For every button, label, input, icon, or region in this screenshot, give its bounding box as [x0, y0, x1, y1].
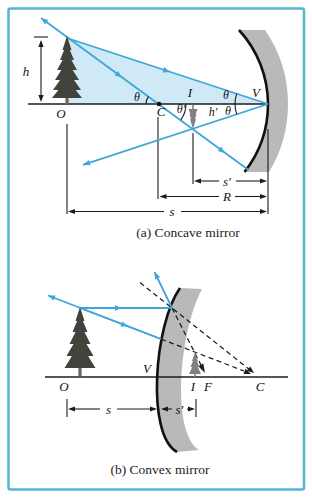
- image-tree-virtual: [189, 352, 201, 377]
- s-dimension-a: s: [68, 204, 267, 219]
- arrow-left: [194, 178, 201, 183]
- caption-concave: (a) Concave mirror: [136, 225, 240, 240]
- s-prime-label-b: s′: [176, 402, 184, 417]
- h-prime-label: h′: [209, 105, 218, 119]
- C-label-a: C: [157, 104, 166, 119]
- arrow-right: [260, 194, 267, 199]
- s-dimension-b: s: [68, 402, 157, 417]
- angle-arc-at-V-lower: [235, 104, 237, 114]
- radius-label: R: [222, 189, 231, 204]
- caption-convex: (b) Convex mirror: [111, 462, 210, 477]
- I-label-b: I: [190, 379, 196, 394]
- ray-arrow: [83, 160, 91, 165]
- mirror-diagrams-svg: s′ R s: [0, 0, 312, 498]
- V-label-a: V: [252, 85, 262, 100]
- F-label-b: F: [203, 379, 213, 394]
- theta-prime-label: θ′: [177, 102, 186, 116]
- image-tree-inverted: [189, 105, 198, 129]
- ray-arrow: [121, 321, 129, 326]
- s-label-a: s: [169, 204, 174, 219]
- arrow-right: [188, 406, 195, 411]
- arrow-left: [68, 209, 75, 214]
- arrow-right: [150, 406, 157, 411]
- s-prime-label: s′: [223, 174, 231, 189]
- figure-mirror-diagrams: s′ R s: [0, 0, 312, 498]
- C-label-b: C: [256, 379, 265, 394]
- arrow-left: [160, 194, 167, 199]
- chief-reflected-ray: [48, 296, 161, 340]
- s-label-b: s: [106, 402, 111, 417]
- height-dimension: [34, 37, 48, 102]
- s-prime-dimension: s′: [194, 174, 267, 189]
- arrow-right: [260, 209, 267, 214]
- theta-at-V-lower-label: θ: [225, 104, 231, 118]
- convex-mirror-panel: s s′ O V I F C (b) Convex mirror: [45, 272, 288, 477]
- object-tree-b: [65, 307, 96, 377]
- h-label: h: [23, 64, 30, 79]
- ray-arrow: [155, 272, 161, 280]
- V-label-b: V: [143, 361, 153, 376]
- I-label-a: I: [187, 85, 193, 100]
- arrow-left: [68, 406, 75, 411]
- theta-at-C-label: θ: [134, 90, 140, 104]
- ray-arrow: [48, 295, 56, 300]
- reflected-ray-from-vertex: [83, 104, 268, 165]
- concave-mirror-panel: s′ R s: [23, 18, 288, 240]
- theta-at-V-upper-label: θ: [223, 88, 229, 102]
- O-label-b: O: [59, 379, 69, 394]
- ray-arrow: [163, 67, 171, 72]
- arrow-right: [260, 178, 267, 183]
- ray-arrow: [115, 305, 122, 311]
- radius-dimension: R: [160, 189, 268, 204]
- O-label-a: O: [56, 106, 66, 121]
